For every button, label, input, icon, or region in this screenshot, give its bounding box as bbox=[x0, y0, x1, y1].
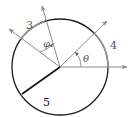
ray-vertical bbox=[42, 6, 60, 67]
arc-4 bbox=[94, 33, 108, 67]
label-theta: θ bbox=[83, 53, 89, 64]
theta-angle-arc bbox=[75, 52, 81, 67]
label-arc-4: 4 bbox=[110, 39, 117, 52]
label-phi: φ bbox=[43, 38, 50, 49]
label-radius-5: 5 bbox=[43, 96, 50, 109]
radius-line bbox=[22, 67, 60, 94]
ray-upper-left bbox=[9, 29, 60, 67]
label-arc-3: 3 bbox=[26, 19, 33, 32]
circle-diagram: 3 4 5 φ θ bbox=[0, 0, 134, 117]
